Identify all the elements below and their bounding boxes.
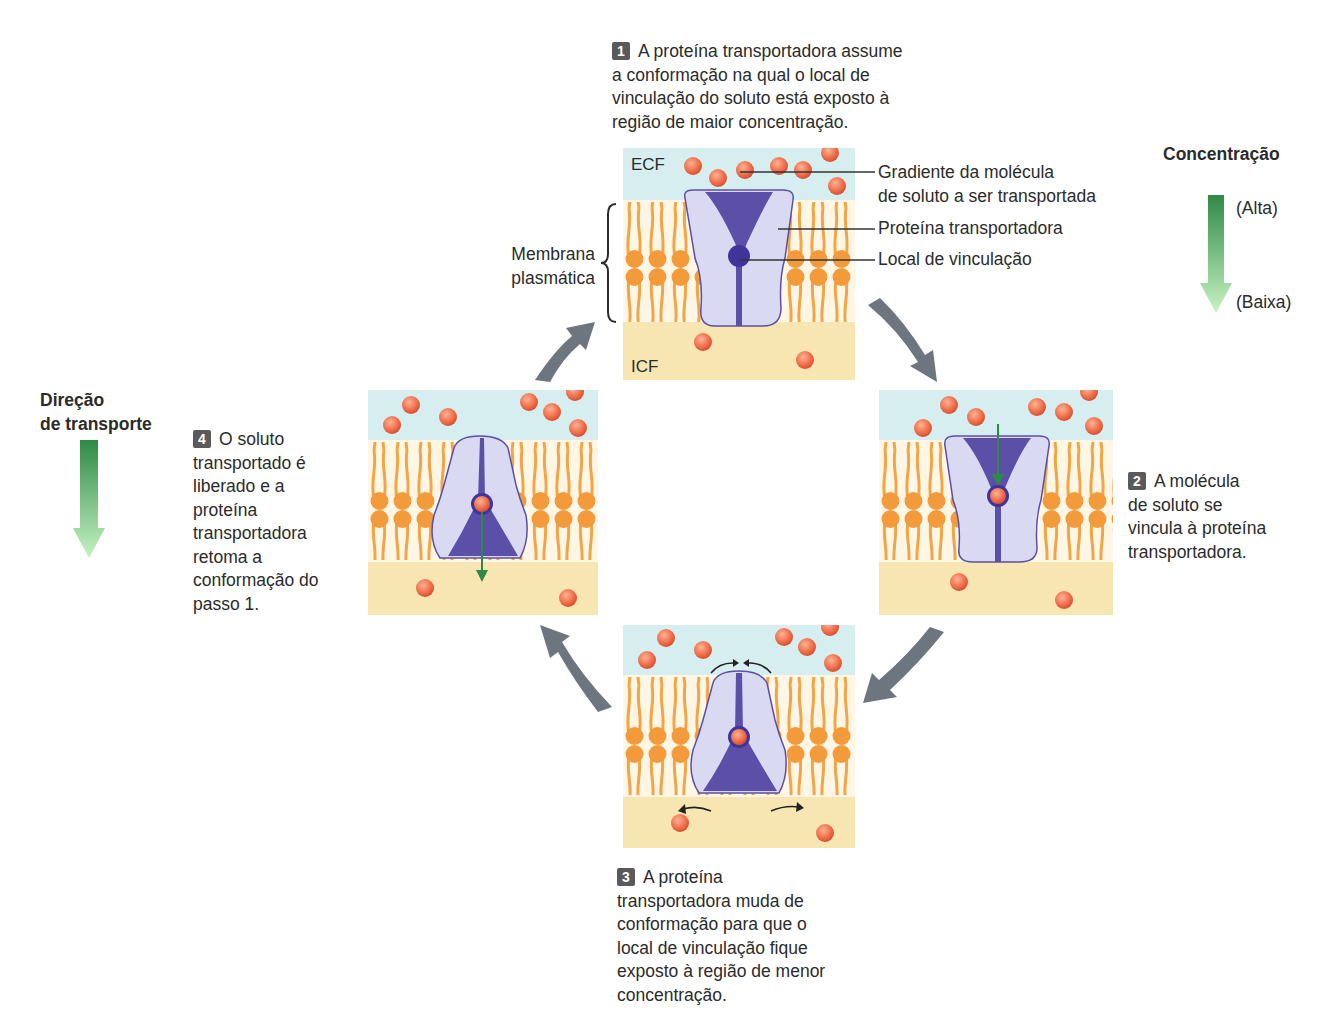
callout-gradient: Gradiente da molécula de soluto a ser tr…: [878, 160, 1096, 208]
step-1-badge: 1: [612, 42, 630, 60]
callout-carrier-protein: Proteína transportadora: [878, 216, 1063, 240]
step-4-line-7: conformação do: [193, 569, 363, 593]
step-2-badge: 2: [1128, 472, 1146, 490]
panel-step-4: [368, 390, 598, 615]
step-4-line-1: O soluto: [219, 429, 284, 449]
panel-step-2: [879, 390, 1113, 615]
step-4-line-5: transportadora: [193, 522, 363, 546]
step-2-line-4: transportadora.: [1128, 541, 1318, 565]
step-3-line-5: exposto à região de menor: [617, 960, 877, 984]
step-1-line-1: A proteína transportadora assume: [638, 41, 903, 61]
step-4-line-8: passo 1.: [193, 593, 363, 617]
step-3-line-2: transportadora muda de: [617, 890, 877, 914]
icf-label: ICF: [631, 357, 658, 376]
step-3-line-3: conformação para que o: [617, 913, 877, 937]
step-2-line-2: de soluto se: [1128, 494, 1318, 518]
step-4-line-2: transportado é: [193, 452, 363, 476]
step-1-caption: 1A proteína transportadora assume a conf…: [612, 40, 962, 134]
step-1-line-3: vinculação do soluto está exposto à: [612, 87, 962, 111]
step-3-badge: 3: [617, 868, 635, 886]
step-2-line-3: vincula à proteína: [1128, 517, 1318, 541]
transport-direction-line-2: de transporte: [40, 412, 152, 436]
cycle-arrow-1-to-2-icon: [868, 298, 937, 382]
membrane-label-line-1: Membrana: [502, 242, 595, 266]
membrane-label: Membrana plasmática: [502, 242, 595, 290]
step-4-line-3: liberado e a: [193, 475, 363, 499]
transport-direction-line-1: Direção: [40, 388, 152, 412]
step-3-caption: 3A proteína transportadora muda de confo…: [617, 866, 877, 1007]
transport-direction-arrow-icon: [73, 440, 105, 560]
step-4-line-6: retoma a: [193, 546, 363, 570]
step-4-badge: 4: [193, 430, 211, 448]
membrane-label-line-2: plasmática: [502, 266, 595, 290]
panel-step-3: [623, 625, 855, 848]
step-3-line-4: local de vinculação fique: [617, 937, 877, 961]
cycle-arrow-2-to-3-icon: [863, 627, 944, 703]
cycle-arrow-4-to-1-icon: [535, 322, 595, 382]
concentration-title: Concentração: [1163, 142, 1280, 166]
step-3-line-1: A proteína: [643, 867, 723, 887]
step-3-line-6: concentração.: [617, 984, 877, 1008]
concentration-low-label: (Baixa): [1236, 290, 1291, 314]
transport-direction-title: Direção de transporte: [40, 388, 152, 436]
cycle-arrow-3-to-4-icon: [540, 625, 612, 712]
step-1-line-4: região de maior concentração.: [612, 111, 962, 135]
step-2-line-1: A molécula: [1154, 471, 1240, 491]
callout-lines: [740, 160, 880, 270]
membrane-brace-icon: [598, 202, 620, 324]
step-4-line-4: proteína: [193, 499, 363, 523]
callout-gradient-line-2: de soluto a ser transportada: [878, 184, 1096, 208]
ecf-label: ECF: [631, 155, 665, 174]
callout-gradient-line-1: Gradiente da molécula: [878, 160, 1096, 184]
step-2-caption: 2A molécula de soluto se vincula à prote…: [1128, 470, 1318, 564]
callout-binding-site: Local de vinculação: [878, 247, 1032, 271]
step-4-caption: 4O soluto transportado é liberado e a pr…: [193, 428, 363, 616]
concentration-gradient-arrow-icon: [1200, 195, 1232, 315]
step-1-line-2: a conformação na qual o local de: [612, 64, 962, 88]
concentration-high-label: (Alta): [1236, 196, 1278, 220]
